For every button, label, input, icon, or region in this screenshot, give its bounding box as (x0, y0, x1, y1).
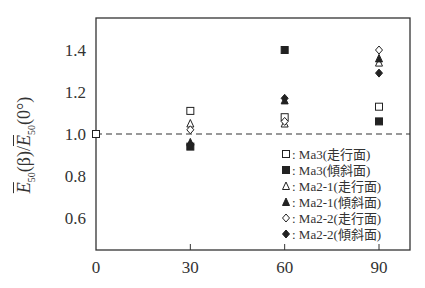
diamond-open-point (376, 46, 383, 54)
legend-marker-icon (283, 151, 290, 158)
y-tick-label: 0.6 (65, 209, 86, 228)
scatter-chart: 03060900.60.81.01.21.4 : Ma3(走行面): Ma3(傾… (0, 0, 425, 288)
legend-label: : Ma2-2(走行面) (292, 211, 381, 226)
legend-label: : Ma2-1(傾斜面) (292, 195, 381, 210)
legend-label: : Ma3(走行面) (292, 147, 370, 162)
square-open-point (93, 131, 100, 138)
square-open-point (376, 103, 383, 110)
x-tick-label: 90 (371, 258, 388, 277)
y-tick-label: 1.0 (65, 125, 86, 144)
square-filled-point (376, 118, 383, 125)
x-tick-label: 60 (276, 258, 293, 277)
square-open-point (187, 107, 194, 114)
legend-label: : Ma2-2(傾斜面) (292, 227, 381, 242)
legend-marker-icon (283, 167, 290, 174)
triangle-filled-point (376, 54, 383, 62)
legend-label: : Ma3(傾斜面) (292, 163, 370, 178)
diamond-filled-point (376, 69, 383, 77)
y-tick-label: 0.8 (65, 167, 86, 186)
y-tick-label: 1.2 (65, 83, 86, 102)
legend-label: : Ma2-1(走行面) (292, 179, 381, 194)
x-tick-label: 0 (92, 258, 101, 277)
legend: : Ma3(走行面): Ma3(傾斜面): Ma2-1(走行面): Ma2-1(… (276, 143, 404, 242)
square-filled-point (281, 47, 288, 54)
x-tick-label: 30 (182, 258, 199, 277)
y-tick-label: 1.4 (65, 41, 87, 60)
